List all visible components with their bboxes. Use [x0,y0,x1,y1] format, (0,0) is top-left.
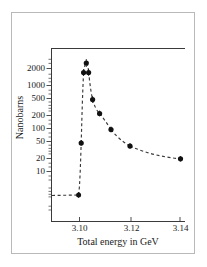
x-tick-label-3-12: 3.12 [117,224,146,233]
y-tick-label-2000: 2000 [14,64,45,73]
x-tick-label-3-10: 3.10 [65,224,94,233]
x-tick-label-3-14: 3.14 [166,224,195,233]
y-tick-label-10: 10 [14,167,45,176]
figure-container: 2000 1000 500 200 100 50 20 10 3.10 3.12… [0,0,207,267]
plot-axes-frame [51,48,185,222]
y-axis-title: Nanobarns [14,80,25,156]
x-axis-title: Total energy in GeV [42,236,194,247]
